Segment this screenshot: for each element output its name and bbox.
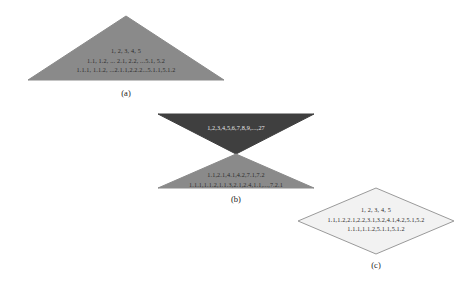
shape-group-c: 1, 2, 3, 4, 5 1.1,1.2,2.1,2.2,3.1,3.2,4.… bbox=[296, 186, 456, 276]
shape-c-caption: (c) bbox=[296, 260, 456, 270]
shape-group-b: 1,2,3,4,5,6,7,8,9,...,27 1.1,2.1,4.1,4.2… bbox=[156, 112, 316, 207]
diamond-shape-c bbox=[296, 186, 456, 256]
figure-canvas: 1, 2, 3, 4, 5 1.1, 1.2, ... 2.1, 2.2, ..… bbox=[0, 0, 468, 282]
hourglass-shape-b bbox=[156, 112, 316, 190]
inverted-triangle-top bbox=[158, 114, 314, 154]
upright-triangle-shape-a bbox=[26, 14, 226, 84]
upright-triangle-bottom bbox=[158, 154, 314, 188]
shape-a-caption: (a) bbox=[26, 88, 226, 98]
shape-b-caption: (b) bbox=[156, 194, 316, 204]
shape-group-a: 1, 2, 3, 4, 5 1.1, 1.2, ... 2.1, 2.2, ..… bbox=[26, 14, 226, 99]
